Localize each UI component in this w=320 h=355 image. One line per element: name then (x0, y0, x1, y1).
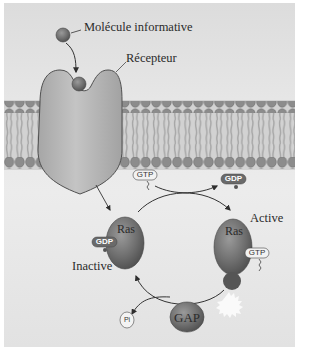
gdp-bound-text: GDP (92, 238, 117, 246)
signal-molecule-icon (56, 28, 70, 42)
gtp-incoming-text: GTP (133, 171, 157, 179)
signal-molecule-label: Molécule informative (84, 21, 193, 34)
gdp-released-text: GDP (221, 175, 246, 183)
phosphate-text: Pi (120, 316, 134, 323)
bound-signal-molecule-icon (72, 77, 86, 91)
ras-active-label: Ras (225, 225, 243, 237)
gap-label: GAP (174, 311, 200, 324)
inactive-label: Inactive (72, 260, 112, 273)
receptor-label: Récepteur (126, 52, 177, 65)
active-label: Active (250, 212, 283, 225)
gtp-bound-text: GTP (245, 249, 269, 257)
ras-inactive-label: Ras (117, 223, 135, 235)
